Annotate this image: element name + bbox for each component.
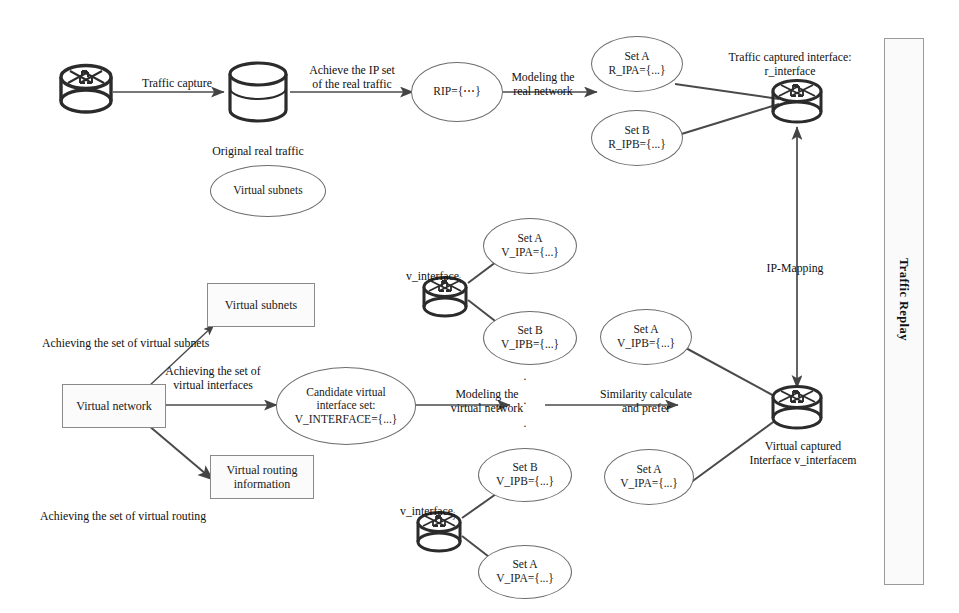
prefer-lower-value: V_IPA={...}: [620, 477, 678, 491]
v-interface-bottom-label: v_interfacej: [400, 490, 490, 521]
caption-achieving-interfaces-text: Achieving the set of virtual interfaces: [165, 364, 260, 392]
diagram-canvas: RIP={⋯} Set A R_IPA={...} Set B R_IPB={.…: [0, 0, 959, 613]
caption-achieving-routing: Achieving the set of virtual routing: [40, 495, 290, 523]
edge-setB-to-rinterface: [675, 104, 779, 136]
v-interface-bottom-name: v_interface: [400, 504, 453, 518]
virtual-routing-line1: Virtual routing: [227, 463, 298, 477]
caption-achieving-subnets-text: Achieving the set of virtual subnets: [42, 336, 209, 350]
caption-modeling-real-network: Modeling the real network: [493, 56, 593, 98]
real-set-b-value: R_IPB={...}: [608, 138, 665, 152]
virtual-bottom-set-b-value: V_IPB={...}: [496, 475, 554, 489]
virtual-top-set-b-value: V_IPB={...}: [501, 338, 559, 352]
caption-traffic-capture-text: Traffic capture: [142, 76, 212, 90]
caption-achieving-subnets: Achieving the set of virtual subnets: [42, 322, 292, 350]
caption-modeling-virtual-network-text: Modeling the virtual network: [451, 387, 523, 415]
r-interface-router-icon: [770, 74, 824, 132]
real-set-a-value: R_IPA={...}: [608, 64, 665, 78]
virtual-routing-box: Virtual routing information: [210, 455, 314, 499]
virtual-bottom-set-b-node: Set B V_IPB={...}: [478, 448, 572, 502]
edge-vnet-to-routing: [148, 425, 213, 480]
caption-traffic-capture: Traffic capture: [122, 62, 232, 90]
vertical-ellipsis: · · ·: [519, 372, 531, 432]
real-set-a-node: Set A R_IPA={...}: [591, 36, 683, 92]
real-set-b-title: Set B: [624, 124, 649, 138]
caption-original-real-traffic-text: Original real traffic: [212, 144, 304, 158]
virtual-top-set-b-node: Set B V_IPB={...}: [483, 311, 577, 365]
real-set-a-title: Set A: [624, 50, 649, 64]
caption-original-real-traffic: Original real traffic: [197, 130, 319, 158]
ellipsis-dot-3: ·: [523, 419, 527, 432]
traffic-replay-sidebar-text: Traffic Replay: [897, 258, 911, 341]
ellipsis-dot-2: ·: [523, 396, 527, 409]
candidate-line3: V_INTERFACE={...}: [295, 413, 398, 427]
virtual-subnets-box-label: Virtual subnets: [225, 298, 297, 312]
virtual-top-set-a-value: V_IPA={...}: [501, 246, 559, 260]
virtual-subnets-ellipse: Virtual subnets: [210, 165, 326, 217]
ellipsis-dot-1: ·: [523, 372, 527, 385]
prefer-upper-value: V_IPB={...}: [617, 337, 675, 351]
virtual-subnets-box: Virtual subnets: [207, 283, 315, 327]
caption-achieving-interfaces: Achieving the set of virtual interfaces: [128, 350, 298, 392]
virtual-top-set-a-node: Set A V_IPA={...}: [483, 218, 577, 274]
traffic-replay-sidebar-label: Traffic Replay: [896, 258, 911, 341]
caption-ip-mapping: IP-Mapping: [740, 247, 850, 275]
v-interface-top-name: v_interface: [406, 269, 459, 283]
caption-achieve-ip-set: Achieve the IP set of the real traffic: [286, 49, 418, 91]
rip-set-label: RIP={⋯}: [433, 85, 480, 99]
virtual-bottom-set-a-value: V_IPA={...}: [496, 572, 554, 586]
prefer-lower-title: Set A: [636, 463, 661, 477]
v-interface-top-label: v_interfacei: [406, 255, 496, 286]
caption-virtual-captured-interface-text: Virtual captured Interface v_interfacem: [749, 439, 856, 467]
virtual-network-box-label: Virtual network: [76, 399, 152, 413]
virtual-routing-line2: information: [234, 477, 291, 491]
caption-achieving-routing-text: Achieving the set of virtual routing: [40, 509, 206, 523]
virtual-top-set-b-title: Set B: [517, 324, 542, 338]
virtual-top-set-a-title: Set A: [517, 232, 542, 246]
caption-achieve-ip-set-text: Achieve the IP set of the real traffic: [309, 63, 395, 91]
real-set-b-node: Set B R_IPB={...}: [591, 110, 683, 166]
prefer-lower-node: Set A V_IPA={...}: [604, 449, 694, 505]
virtual-bottom-set-a-node: Set A V_IPA={...}: [478, 545, 572, 599]
caption-traffic-captured-interface: Traffic captured interface: r_interface: [700, 36, 880, 78]
caption-modeling-real-network-text: Modeling the real network: [511, 70, 574, 98]
v-interface-top-subscript: i: [459, 277, 461, 286]
virtual-subnets-ellipse-label: Virtual subnets: [233, 184, 302, 198]
prefer-upper-node: Set A V_IPB={...}: [600, 309, 692, 365]
caption-virtual-captured-interface: Virtual captured Interface v_interfacem: [700, 425, 906, 467]
candidate-line2: interface set:: [316, 399, 375, 413]
caption-similarity-calculate-text: Similarity calculate and prefer: [600, 387, 692, 415]
v-interface-bottom-subscript: j: [453, 512, 455, 521]
caption-traffic-captured-interface-text: Traffic captured interface: r_interface: [728, 50, 851, 78]
virtual-bottom-set-b-title: Set B: [512, 461, 537, 475]
edge-setA-to-rinterface: [675, 84, 779, 99]
rip-set-node: RIP={⋯}: [411, 62, 503, 122]
prefer-upper-title: Set A: [633, 323, 658, 337]
caption-ip-mapping-text: IP-Mapping: [766, 261, 823, 275]
caption-similarity-calculate: Similarity calculate and prefer: [566, 373, 726, 415]
candidate-line1: Candidate virtual: [306, 386, 386, 400]
real-network-router-icon: [58, 57, 114, 129]
virtual-bottom-set-a-title: Set A: [512, 558, 537, 572]
original-real-traffic-database-icon: [225, 58, 291, 130]
